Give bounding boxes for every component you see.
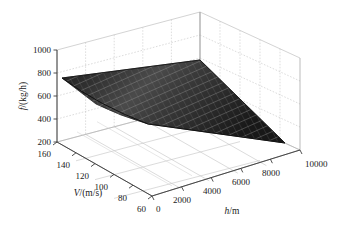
x-tick-label: 6000 <box>232 177 251 187</box>
y-tick-label: 140 <box>57 160 71 170</box>
y-tick-label: 160 <box>38 149 52 159</box>
z-axis-title-units: /(kg/h) <box>18 82 29 108</box>
surface-mesh-lines-v <box>62 60 285 143</box>
y-tick-label: 60 <box>137 204 147 214</box>
z-tick-label: 800 <box>38 68 52 78</box>
x-tick-label: 8000 <box>262 168 281 178</box>
z-axis-tick-labels: 1000 800 600 400 200 <box>33 45 52 147</box>
y-axis-title-units: /(m/s) <box>80 188 103 199</box>
x-tick-label: 4000 <box>203 186 222 196</box>
x-tick-label: 2000 <box>173 195 192 205</box>
z-axis-title: f/(kg/h) <box>18 82 29 111</box>
z-tick-label: 600 <box>38 91 52 101</box>
x-tick-label: 10000 <box>305 159 328 169</box>
surface-plot-figure: 1000 800 600 400 200 160 140 120 100 80 … <box>0 0 340 235</box>
y-axis-tick-labels: 160 140 120 100 80 60 <box>38 149 147 214</box>
z-tick-label: 200 <box>38 137 52 147</box>
x-axis-title: h/m <box>225 206 240 216</box>
x-tick-label: 0 <box>156 204 161 214</box>
y-tick-label: 80 <box>118 193 128 203</box>
plot-canvas: 1000 800 600 400 200 160 140 120 100 80 … <box>0 0 340 235</box>
z-tick-label: 1000 <box>33 45 52 55</box>
z-tick-label: 400 <box>38 114 52 124</box>
y-tick-label: 120 <box>76 171 90 181</box>
x-axis-title-units: /m <box>229 206 240 216</box>
y-axis-title: V/(m/s) <box>74 188 103 199</box>
surface-mesh <box>62 60 285 143</box>
